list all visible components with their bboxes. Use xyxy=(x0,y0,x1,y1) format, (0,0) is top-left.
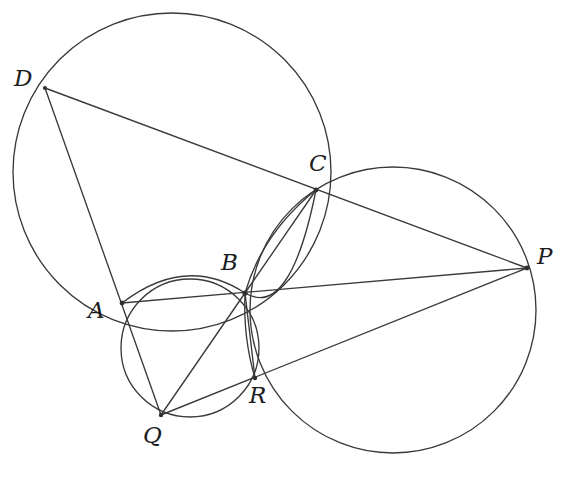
vertex-dot-r xyxy=(253,376,257,380)
point-label-d: D xyxy=(14,67,32,90)
vertex-dot-p xyxy=(525,266,530,271)
segment-d-c-p xyxy=(45,88,527,268)
vertex-dot-c xyxy=(314,188,319,193)
circle-through-a-b-q-r xyxy=(121,279,259,417)
vertex-dot-d xyxy=(43,86,47,90)
vertex-dot-a xyxy=(120,301,125,306)
point-label-c: C xyxy=(309,152,327,175)
vertex-dot-b xyxy=(242,290,247,295)
vertex-dot-q xyxy=(159,413,163,417)
point-label-q: Q xyxy=(143,424,162,447)
point-label-b: B xyxy=(221,251,238,274)
segment-a-b-p xyxy=(122,268,527,303)
segment-q-r-p xyxy=(161,268,527,415)
segment-b-c xyxy=(245,190,316,293)
segment-d-a-q xyxy=(45,88,161,415)
point-label-r: R xyxy=(249,384,266,407)
point-label-p: P xyxy=(537,245,552,268)
geometry-figure: D C P B A R Q xyxy=(0,0,563,480)
geometry-canvas xyxy=(0,0,563,480)
circle-through-c-p-r xyxy=(250,167,536,453)
segment-b-q xyxy=(161,293,245,415)
point-label-a: A xyxy=(88,299,105,322)
